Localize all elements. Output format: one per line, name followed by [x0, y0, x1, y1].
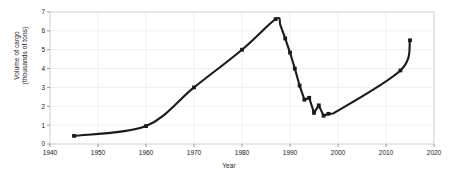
svg-text:5: 5 — [41, 46, 45, 53]
y-axis-ticks: 01234567 — [41, 8, 50, 147]
y-axis-title: Volume of cargo (thousands of tons) — [13, 14, 28, 98]
svg-text:2000: 2000 — [331, 149, 346, 156]
svg-text:7: 7 — [41, 8, 45, 15]
svg-text:1: 1 — [41, 122, 45, 129]
x-axis-ticks: 194019501960197019801990200020102020 — [43, 144, 442, 156]
x-axis-title: Year — [0, 162, 458, 169]
y-axis-title-line2: (thousands of tons) — [20, 14, 28, 98]
gridlines — [50, 12, 434, 144]
svg-text:3: 3 — [41, 84, 45, 91]
svg-text:0: 0 — [41, 140, 45, 147]
svg-text:4: 4 — [41, 65, 45, 72]
cargo-volume-line-chart: 194019501960197019801990200020102020 012… — [0, 0, 458, 180]
svg-text:2020: 2020 — [427, 149, 442, 156]
svg-text:2010: 2010 — [379, 149, 394, 156]
svg-text:1970: 1970 — [187, 149, 202, 156]
svg-text:1960: 1960 — [139, 149, 154, 156]
svg-text:2: 2 — [41, 103, 45, 110]
svg-text:1980: 1980 — [235, 149, 250, 156]
chart-canvas: 194019501960197019801990200020102020 012… — [0, 0, 458, 180]
y-axis-title-line1: Volume of cargo — [13, 31, 20, 79]
svg-text:1950: 1950 — [91, 149, 106, 156]
svg-text:6: 6 — [41, 27, 45, 34]
svg-text:1940: 1940 — [43, 149, 58, 156]
svg-text:1990: 1990 — [283, 149, 298, 156]
